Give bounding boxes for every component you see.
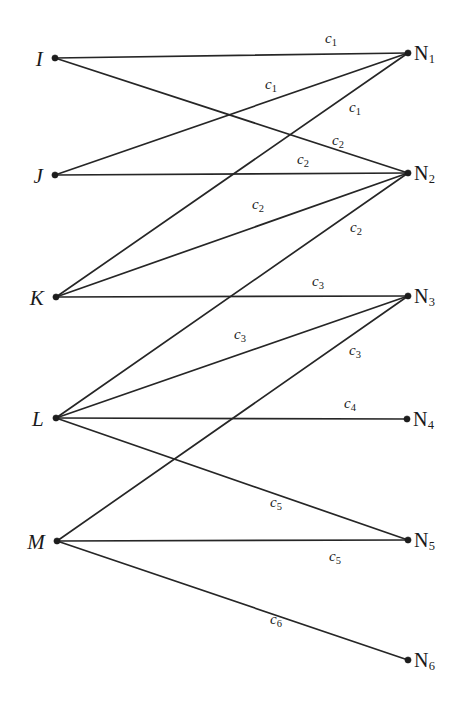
edge-cost-label: c6 xyxy=(270,611,282,629)
graph-node-dot-l[interactable] xyxy=(53,415,59,421)
edge-cost-subscript: 2 xyxy=(357,226,363,237)
edge-cost-symbol: c xyxy=(332,132,339,148)
edge-cost-label: c2 xyxy=(252,196,264,214)
graph-edge xyxy=(56,418,408,540)
graph-node-dot-n3[interactable] xyxy=(405,293,411,299)
node-symbol: N xyxy=(414,649,428,671)
node-label-n1: N1 xyxy=(414,42,435,67)
node-label-j: J xyxy=(33,164,43,189)
edge-cost-subscript: 1 xyxy=(272,83,278,94)
edge-cost-subscript: 1 xyxy=(356,106,362,117)
edge-cost-symbol: c xyxy=(349,342,356,358)
node-label-k: K xyxy=(30,286,44,311)
graph-node-dot-i[interactable] xyxy=(52,55,58,61)
edge-cost-label: c5 xyxy=(270,494,282,512)
edge-cost-subscript: 5 xyxy=(277,501,283,512)
edge-cost-symbol: c xyxy=(297,151,304,167)
node-symbol: N xyxy=(414,42,428,64)
edge-cost-subscript: 3 xyxy=(356,349,362,360)
node-label-n5: N5 xyxy=(414,529,435,554)
edge-cost-symbol: c xyxy=(265,76,272,92)
node-label-n2: N2 xyxy=(414,162,435,187)
edge-cost-symbol: c xyxy=(270,494,277,510)
node-symbol: N xyxy=(414,529,428,551)
edge-cost-subscript: 2 xyxy=(304,158,310,169)
edge-cost-subscript: 3 xyxy=(319,280,325,291)
node-label-n3: N3 xyxy=(414,285,435,310)
graph-node-dot-n4[interactable] xyxy=(404,416,410,422)
graph-edge xyxy=(55,53,408,58)
edge-cost-label: c3 xyxy=(349,342,361,360)
graph-node-dot-n6[interactable] xyxy=(405,657,411,663)
node-symbol: N xyxy=(414,285,428,307)
edge-cost-label: c1 xyxy=(349,99,361,117)
node-label-n4: N4 xyxy=(413,408,434,433)
edge-cost-subscript: 5 xyxy=(336,555,342,566)
edge-cost-label: c3 xyxy=(312,273,324,291)
node-subscript: 3 xyxy=(428,295,435,309)
graph-node-dot-j[interactable] xyxy=(52,172,58,178)
edge-cost-label: c4 xyxy=(344,395,356,413)
node-label-n6: N6 xyxy=(414,649,435,674)
edge-cost-label: c1 xyxy=(265,76,277,94)
edge-cost-symbol: c xyxy=(350,219,357,235)
edge-cost-label: c5 xyxy=(329,548,341,566)
edge-cost-subscript: 2 xyxy=(339,139,345,150)
edge-cost-subscript: 6 xyxy=(277,618,283,629)
graph-edge xyxy=(57,540,408,541)
graph-edge xyxy=(57,541,408,660)
graph-node-dot-n5[interactable] xyxy=(405,537,411,543)
graph-node-dot-n2[interactable] xyxy=(405,170,411,176)
node-subscript: 1 xyxy=(428,52,435,66)
node-subscript: 6 xyxy=(428,659,435,673)
bipartite-graph-figure: c1c2c1c2c1c2c3c2c3c4c5c3c5c6IJKLMN1N2N3N… xyxy=(0,0,458,709)
edge-cost-label: c2 xyxy=(297,151,309,169)
graph-node-dot-n1[interactable] xyxy=(405,50,411,56)
node-label-l: L xyxy=(32,407,44,432)
edge-cost-symbol: c xyxy=(312,273,319,289)
edge-cost-label: c3 xyxy=(234,326,246,344)
edge-cost-symbol: c xyxy=(344,395,351,411)
edge-cost-symbol: c xyxy=(329,548,336,564)
node-label-m: M xyxy=(27,530,45,555)
edge-cost-label: c1 xyxy=(325,30,337,48)
graph-node-dot-k[interactable] xyxy=(53,294,59,300)
edge-cost-symbol: c xyxy=(270,611,277,627)
edge-cost-subscript: 4 xyxy=(351,402,357,413)
edge-cost-subscript: 2 xyxy=(259,203,265,214)
edge-cost-symbol: c xyxy=(325,30,332,46)
edge-cost-label: c2 xyxy=(350,219,362,237)
edge-cost-symbol: c xyxy=(252,196,259,212)
node-label-i: I xyxy=(36,47,43,72)
node-subscript: 5 xyxy=(428,539,435,553)
node-subscript: 2 xyxy=(428,172,435,186)
node-subscript: 4 xyxy=(427,418,434,432)
graph-canvas xyxy=(0,0,458,709)
edge-cost-symbol: c xyxy=(234,326,241,342)
graph-node-dot-m[interactable] xyxy=(54,538,60,544)
edge-cost-symbol: c xyxy=(349,99,356,115)
node-symbol: N xyxy=(414,162,428,184)
edge-cost-subscript: 1 xyxy=(332,37,338,48)
edge-cost-label: c2 xyxy=(332,132,344,150)
edge-cost-subscript: 3 xyxy=(241,333,247,344)
node-symbol: N xyxy=(413,408,427,430)
